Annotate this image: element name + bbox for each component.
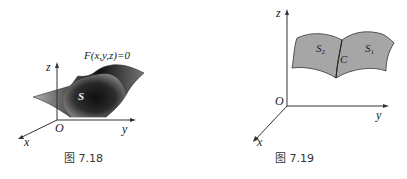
- s2-subscript: 2: [322, 48, 326, 56]
- y-axis-label: y: [122, 123, 127, 135]
- y-axis-label: y: [376, 109, 381, 121]
- s1-subscript: 1: [371, 48, 375, 56]
- figure-7-18: F(x,y,z)=0 S z y x O 图 7.18: [0, 0, 204, 179]
- x-axis-label: x: [257, 136, 262, 148]
- s1-label: S1: [365, 43, 374, 56]
- z-axis-label: z: [276, 7, 281, 19]
- z-axis-label: z: [46, 61, 51, 73]
- caption: 图 7.18: [64, 153, 103, 164]
- figure-7-19: S2 S1 C z y x O 图 7.19: [204, 0, 407, 179]
- equation-label: F(x,y,z)=0: [84, 50, 130, 61]
- origin-label: O: [275, 95, 284, 107]
- caption: 图 7.19: [275, 153, 314, 164]
- s2-label: S2: [316, 43, 325, 56]
- origin-label: O: [55, 122, 64, 134]
- x-axis-label: x: [24, 136, 29, 148]
- curve-label: C: [340, 54, 347, 65]
- surface-label: S: [78, 91, 84, 102]
